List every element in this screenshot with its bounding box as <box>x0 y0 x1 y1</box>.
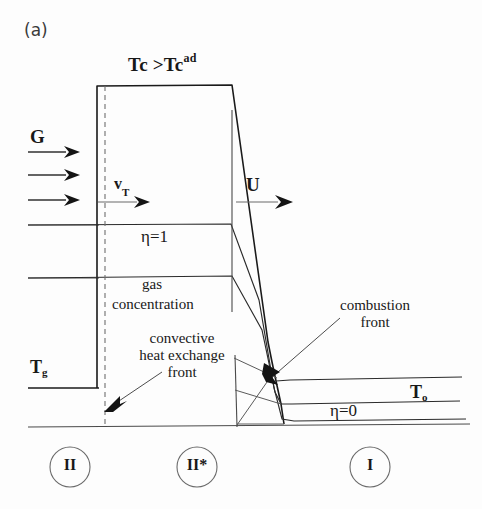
combustion-front-label: combustion front <box>320 297 430 331</box>
tg-base: T <box>30 357 42 377</box>
gas-flux-label: G <box>30 127 45 147</box>
convective-front-line2: heat exchange <box>112 347 252 364</box>
convective-front-line3: front <box>112 364 252 381</box>
figure-container: (a) Tc >Tcad G vT U η=1 gas concentratio… <box>0 0 482 509</box>
plateau-title-base: Tc >Tc <box>128 54 184 75</box>
combustion-front-line1: combustion <box>320 297 430 314</box>
panel-label: (a) <box>24 22 48 40</box>
temp-initial-label: To <box>410 383 428 402</box>
convective-front-line1: convective <box>112 330 252 347</box>
vt-base: v <box>114 175 122 192</box>
front-velocity-label: U <box>246 175 260 195</box>
gas-concentration-label-line1: gas <box>142 277 162 293</box>
thermal-wave-speed-label: vT <box>114 176 129 196</box>
combustion-front-arrowhead <box>262 363 280 385</box>
convective-front-label: convective heat exchange front <box>112 330 252 380</box>
to-subscript: o <box>422 391 428 403</box>
g-arrow-3-head <box>64 194 80 206</box>
to-level-line <box>276 377 462 381</box>
region-label-two-star: II* <box>177 457 217 474</box>
eta-one-label: η=1 <box>141 228 168 246</box>
g-arrow-2-head <box>64 169 80 181</box>
region-label-two: II <box>50 457 90 474</box>
diagram-canvas <box>0 0 482 509</box>
plateau-title-superscript: ad <box>184 51 197 65</box>
eta-zero-label: η=0 <box>330 402 357 420</box>
to-base: T <box>410 382 422 402</box>
gas-concentration-label-line2: concentration <box>112 297 194 313</box>
region-label-one: I <box>350 457 390 474</box>
temp-gas-label: Tg <box>30 358 48 377</box>
hatch-line-2 <box>235 390 281 404</box>
g-arrow-1-head <box>64 146 80 158</box>
tg-subscript: g <box>42 366 48 378</box>
combustion-front-line2: front <box>320 314 430 331</box>
vt-subscript: T <box>122 186 129 198</box>
plateau-title: Tc >Tcad <box>128 54 197 75</box>
